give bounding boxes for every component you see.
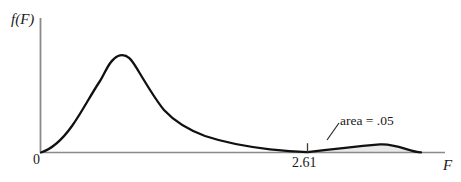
area-annotation-label: area = .05 [340, 113, 394, 129]
origin-tick-label: 0 [33, 152, 40, 168]
critical-value-tick-label: 2.61 [292, 155, 317, 171]
annotation-leader-line [327, 123, 339, 140]
distribution-plot [0, 0, 461, 182]
density-curve [41, 55, 421, 152]
x-axis-label: F [443, 157, 452, 174]
f-distribution-figure: f(F) F 0 2.61 area = .05 [0, 0, 461, 182]
y-axis-label: f(F) [11, 11, 34, 28]
